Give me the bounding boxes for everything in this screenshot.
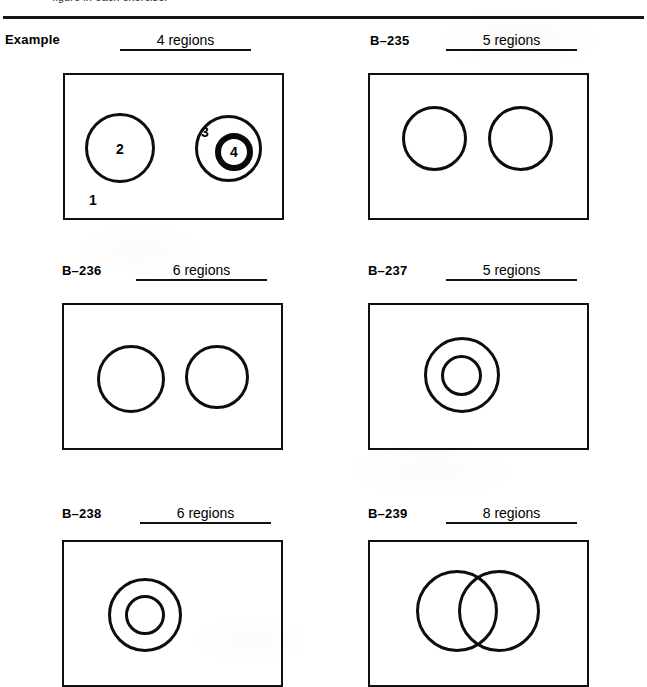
exercise-answer-example[interactable]: 4 regions (120, 32, 251, 51)
exercise-answer-b-238[interactable]: 6 regions (140, 505, 271, 524)
figure-circle-b-237-inner (441, 355, 482, 396)
figure-circle-b-235-right (488, 106, 553, 171)
exercise-label-b-235: B–235 (370, 33, 409, 48)
figure-box-b-238 (62, 540, 283, 687)
region-number-1: 1 (89, 193, 97, 207)
figure-box-b-239 (368, 540, 589, 687)
exercise-answer-b-235[interactable]: 5 regions (446, 32, 577, 51)
region-number-4: 4 (230, 145, 238, 159)
figure-box-b-236 (62, 303, 283, 450)
header-divider-rule (3, 16, 644, 19)
figure-circle-b-236-right (185, 345, 249, 409)
exercise-label-b-236: B–236 (62, 263, 101, 278)
figure-circle-b-236-left (97, 345, 165, 413)
figure-box-b-235 (368, 73, 589, 220)
exercise-answer-b-239[interactable]: 8 regions (446, 505, 577, 524)
exercise-label-b-238: B–238 (62, 506, 101, 521)
exercise-answer-b-236[interactable]: 6 regions (136, 262, 267, 281)
exercise-answer-b-237[interactable]: 5 regions (446, 262, 577, 281)
region-number-3: 3 (201, 125, 209, 139)
exercise-label-example: Example (5, 32, 60, 47)
exercise-label-b-239: B–239 (368, 506, 407, 521)
figure-circle-b-235-left (402, 106, 467, 171)
region-number-2: 2 (116, 142, 124, 156)
figure-circle-b-238-inner (125, 595, 165, 635)
exercise-label-b-237: B–237 (368, 263, 407, 278)
figure-box-b-237 (368, 303, 589, 450)
figure-box-example: 2 3 4 1 (63, 73, 284, 220)
instruction-text: figure in each exercise. (52, 0, 168, 5)
figure-circle-b-239-right (458, 570, 540, 652)
